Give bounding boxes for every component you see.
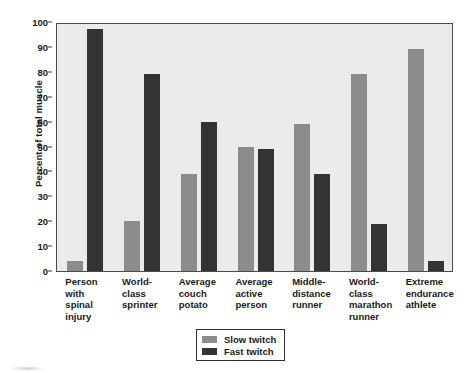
x-tick-label: Extreme endurance athlete xyxy=(406,276,454,311)
bar-fast-twitch xyxy=(371,224,387,271)
bar-fast-twitch xyxy=(87,29,103,271)
y-tick-mark xyxy=(48,271,52,272)
plot-inner xyxy=(57,24,452,271)
y-tick-label: 50 xyxy=(37,141,48,152)
y-tick-mark xyxy=(48,46,52,47)
plot-area xyxy=(56,23,453,272)
x-tick-label: Average couch potato xyxy=(179,276,216,311)
y-tick-mark xyxy=(48,246,52,247)
bar-group xyxy=(294,24,330,271)
y-tick-label: 100 xyxy=(32,17,48,28)
legend-label-fast-twitch: Fast twitch xyxy=(224,346,274,357)
legend-swatch-fast-twitch xyxy=(202,348,217,355)
bar-slow-twitch xyxy=(351,74,367,271)
bar-fast-twitch xyxy=(314,174,330,271)
y-tick-label: 40 xyxy=(37,166,48,177)
bar-slow-twitch xyxy=(238,147,254,272)
bar-group xyxy=(408,24,444,271)
y-tick-mark xyxy=(48,146,52,147)
bar-group xyxy=(238,24,274,271)
y-tick-mark xyxy=(48,121,52,122)
legend-label-slow-twitch: Slow twitch xyxy=(224,334,276,345)
bar-slow-twitch xyxy=(408,49,424,271)
x-tick-label: Person with spinal injury xyxy=(65,276,97,322)
y-tick-mark xyxy=(48,171,52,172)
y-tick-label: 30 xyxy=(37,191,48,202)
x-tick-label: Middle- distance runner xyxy=(292,276,331,311)
y-tick-label: 10 xyxy=(37,241,48,252)
bar-group xyxy=(351,24,387,271)
y-tick-mark xyxy=(48,196,52,197)
legend-item-fast-twitch: Fast twitch xyxy=(202,345,276,357)
bar-slow-twitch xyxy=(67,261,83,271)
bar-fast-twitch xyxy=(201,122,217,271)
y-tick-label: 70 xyxy=(37,91,48,102)
x-tick-label: World- class sprinter xyxy=(122,276,157,311)
y-tick-mark xyxy=(48,221,52,222)
bar-fast-twitch xyxy=(428,261,444,271)
scan-artifact xyxy=(10,366,44,371)
bar-chart-figure: Percent of total muscle 0102030405060708… xyxy=(0,0,473,373)
x-axis-category-labels: Person with spinal injuryWorld- class sp… xyxy=(56,276,453,334)
y-tick-label: 90 xyxy=(37,41,48,52)
bar-group xyxy=(67,24,103,271)
y-tick-label: 60 xyxy=(37,116,48,127)
x-tick-label: Average active person xyxy=(236,276,273,311)
y-tick-mark xyxy=(48,22,52,23)
x-tick-label: World- class marathon runner xyxy=(349,276,392,322)
legend-swatch-slow-twitch xyxy=(202,336,217,343)
bar-fast-twitch xyxy=(258,149,274,271)
y-tick-label: 80 xyxy=(37,66,48,77)
y-axis-tick-labels: 0102030405060708090100 xyxy=(18,22,52,274)
legend: Slow twitch Fast twitch xyxy=(196,329,285,361)
legend-item-slow-twitch: Slow twitch xyxy=(202,333,276,345)
bar-fast-twitch xyxy=(144,74,160,271)
bar-slow-twitch xyxy=(294,124,310,271)
y-tick-mark xyxy=(48,71,52,72)
bar-group xyxy=(124,24,160,271)
bar-slow-twitch xyxy=(124,221,140,271)
bar-slow-twitch xyxy=(181,174,197,271)
y-tick-label: 20 xyxy=(37,216,48,227)
y-tick-mark xyxy=(48,96,52,97)
bar-group xyxy=(181,24,217,271)
